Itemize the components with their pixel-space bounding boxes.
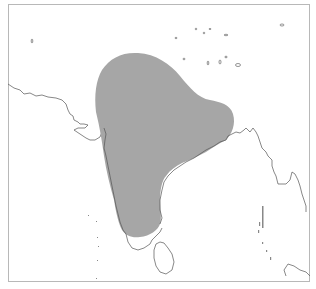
- range-area: [95, 53, 234, 237]
- myanmar-coastline: [258, 136, 306, 212]
- sri-lanka: [154, 242, 174, 274]
- range-map: [0, 0, 316, 289]
- andaman-nicobar-islands: [258, 206, 271, 260]
- west-coastline: [8, 84, 104, 140]
- lakshadweep-islands: [88, 215, 99, 279]
- southeast-landmass: [284, 264, 310, 276]
